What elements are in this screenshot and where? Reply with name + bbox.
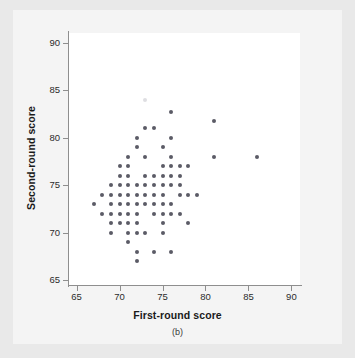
data-point: [109, 212, 113, 216]
data-point: [135, 145, 139, 149]
data-point: [109, 231, 113, 235]
data-point: [161, 145, 165, 149]
x-tick-label-75: 75: [148, 292, 178, 302]
data-point: [126, 174, 130, 178]
data-point: [161, 221, 165, 225]
data-point: [255, 155, 259, 159]
data-point: [178, 174, 182, 178]
data-point: [135, 250, 139, 254]
x-tick-label-85: 85: [233, 292, 263, 302]
figure-background: 657075808590 657075808590 Second-round s…: [0, 0, 355, 358]
data-point: [212, 155, 216, 159]
x-tick-label-80: 80: [190, 292, 220, 302]
data-point: [178, 212, 182, 216]
y-axis-title: Second-round score: [25, 58, 37, 258]
data-point: [178, 193, 182, 197]
data-point: [135, 259, 139, 263]
data-point: [118, 193, 122, 197]
data-point: [126, 155, 130, 159]
data-point: [135, 212, 139, 216]
data-point: [135, 231, 139, 235]
x-axis-line: [68, 285, 302, 286]
data-point: [118, 174, 122, 178]
data-point: [135, 183, 139, 187]
data-point: [152, 212, 156, 216]
data-point: [169, 136, 173, 140]
data-point: [169, 250, 173, 254]
data-point: [169, 212, 173, 216]
data-point: [152, 126, 156, 130]
x-tick-label-70: 70: [105, 292, 135, 302]
data-point: [126, 231, 130, 235]
data-point: [161, 183, 165, 187]
data-point: [135, 221, 139, 225]
data-point: [118, 212, 122, 216]
y-tick-65: [63, 280, 68, 281]
data-point: [178, 183, 182, 187]
data-point: [161, 164, 165, 168]
data-point: [161, 202, 165, 206]
data-point: [161, 174, 165, 178]
data-point: [118, 183, 122, 187]
data-point: [135, 193, 139, 197]
scatter-plot: 657075808590 657075808590 Second-round s…: [0, 0, 355, 358]
data-point: [152, 250, 156, 254]
data-point: [186, 193, 190, 197]
x-tick-label-65: 65: [62, 292, 92, 302]
data-point: [152, 193, 156, 197]
data-point: [118, 164, 122, 168]
y-tick-70: [63, 233, 68, 234]
x-axis-title: First-round score: [0, 309, 355, 321]
data-point: [169, 174, 173, 178]
data-point: [178, 164, 182, 168]
data-point: [161, 193, 165, 197]
data-point: [135, 136, 139, 140]
data-point: [169, 110, 173, 114]
y-tick-label-90: 90: [20, 38, 60, 48]
y-tick-75: [63, 185, 68, 186]
data-point: [118, 221, 122, 225]
data-point: [126, 193, 130, 197]
y-axis-line: [68, 31, 69, 287]
data-point: [152, 174, 156, 178]
data-point: [143, 155, 147, 159]
data-point: [169, 155, 173, 159]
data-point: [118, 202, 122, 206]
data-point: [92, 202, 96, 206]
y-tick-90: [63, 43, 68, 44]
data-point: [195, 193, 199, 197]
x-tick-label-90: 90: [276, 292, 306, 302]
plot-data-area: [68, 33, 300, 285]
panel-caption: (b): [0, 327, 355, 337]
data-point: [135, 202, 139, 206]
y-tick-85: [63, 90, 68, 91]
data-point: [161, 231, 165, 235]
y-tick-80: [63, 138, 68, 139]
data-point: [126, 212, 130, 216]
y-tick-label-65: 65: [20, 275, 60, 285]
data-point: [161, 212, 165, 216]
data-point: [109, 193, 113, 197]
data-point: [143, 98, 147, 102]
